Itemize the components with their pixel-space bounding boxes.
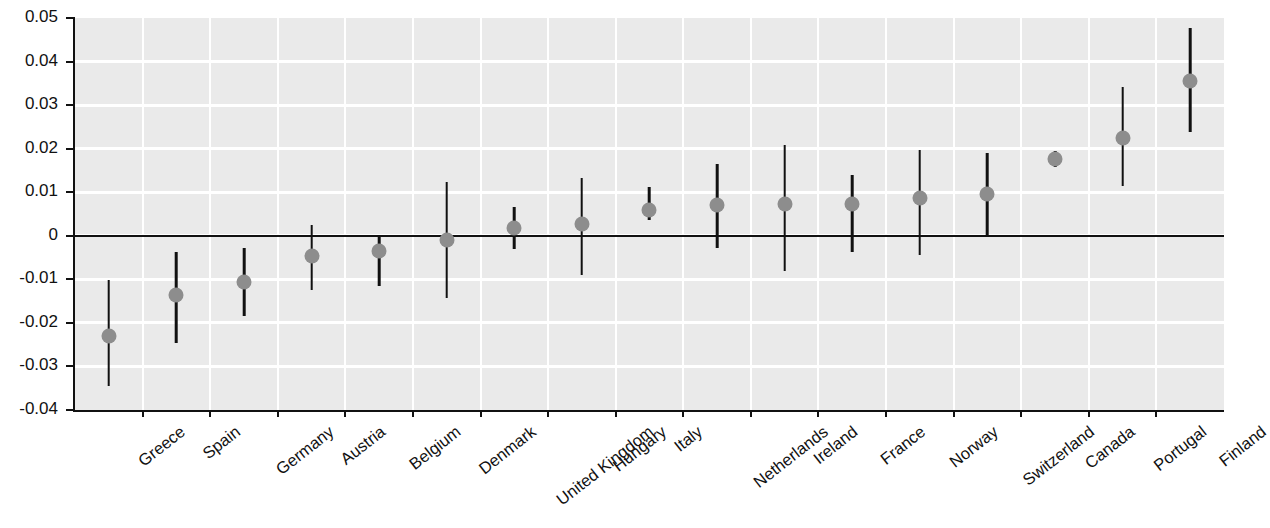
data-point-marker[interactable] xyxy=(1115,131,1130,146)
data-point-marker[interactable] xyxy=(507,220,522,235)
y-tick-mark xyxy=(66,148,75,150)
x-tick-mark xyxy=(817,410,819,417)
y-tick-mark xyxy=(66,322,75,324)
y-tick-label: 0.01 xyxy=(0,181,58,201)
x-axis-label-denmark: Denmark xyxy=(475,422,539,478)
x-tick-mark xyxy=(750,410,752,417)
data-point-marker[interactable] xyxy=(912,191,927,206)
data-point-marker[interactable] xyxy=(1183,73,1198,88)
x-axis-label-greece: Greece xyxy=(134,422,188,470)
y-tick-label: -0.04 xyxy=(0,399,58,419)
y-tick-mark xyxy=(66,365,75,367)
y-tick-mark xyxy=(66,191,75,193)
y-tick-label: -0.03 xyxy=(0,355,58,375)
data-point-group[interactable] xyxy=(210,18,278,410)
data-point-group[interactable] xyxy=(683,18,751,410)
y-tick-label: -0.02 xyxy=(0,312,58,332)
y-tick-mark xyxy=(66,104,75,106)
data-point-marker[interactable] xyxy=(574,216,589,231)
plot-area xyxy=(73,18,1224,412)
data-point-group[interactable] xyxy=(616,18,684,410)
y-tick-label: 0 xyxy=(0,225,58,245)
data-point-marker[interactable] xyxy=(845,196,860,211)
x-tick-mark xyxy=(412,410,414,417)
y-tick-label: 0.05 xyxy=(0,7,58,27)
data-point-marker[interactable] xyxy=(439,233,454,248)
x-tick-mark xyxy=(344,410,346,417)
data-point-marker[interactable] xyxy=(236,274,251,289)
error-bar xyxy=(851,175,854,252)
data-point-marker[interactable] xyxy=(1048,151,1063,166)
data-point-marker[interactable] xyxy=(169,288,184,303)
data-point-group[interactable] xyxy=(143,18,211,410)
x-axis-label-finland: Finland xyxy=(1216,422,1270,470)
data-point-marker[interactable] xyxy=(980,186,995,201)
x-tick-mark xyxy=(885,410,887,417)
data-point-marker[interactable] xyxy=(304,249,319,264)
data-point-group[interactable] xyxy=(75,18,143,410)
x-tick-mark xyxy=(277,410,279,417)
y-tick-label: 0.03 xyxy=(0,94,58,114)
x-axis-label-belgium: Belgium xyxy=(406,422,465,474)
data-point-group[interactable] xyxy=(548,18,616,410)
y-tick-label: 0.02 xyxy=(0,138,58,158)
data-point-marker[interactable] xyxy=(372,244,387,259)
x-axis-label-norway: Norway xyxy=(946,422,1002,471)
data-point-group[interactable] xyxy=(481,18,549,410)
data-point-group[interactable] xyxy=(1089,18,1157,410)
x-tick-mark xyxy=(142,410,144,417)
x-tick-mark xyxy=(547,410,549,417)
x-axis-label-spain: Spain xyxy=(199,422,244,463)
x-tick-mark xyxy=(682,410,684,417)
x-axis-label-portugal: Portugal xyxy=(1150,422,1210,475)
data-point-group[interactable] xyxy=(818,18,886,410)
data-point-marker[interactable] xyxy=(710,198,725,213)
x-axis-label-austria: Austria xyxy=(336,422,388,469)
x-tick-mark xyxy=(1155,410,1157,417)
zero-reference-line xyxy=(75,235,1224,238)
x-tick-mark xyxy=(953,410,955,417)
data-point-group[interactable] xyxy=(1156,18,1224,410)
data-point-marker[interactable] xyxy=(101,328,116,343)
data-point-marker[interactable] xyxy=(642,202,657,217)
x-axis-label-italy: Italy xyxy=(670,422,706,456)
x-axis-label-germany: Germany xyxy=(272,422,337,479)
x-tick-mark xyxy=(480,410,482,417)
data-point-group[interactable] xyxy=(886,18,954,410)
data-point-group[interactable] xyxy=(413,18,481,410)
data-point-group[interactable] xyxy=(751,18,819,410)
x-axis-label-france: France xyxy=(877,422,929,469)
x-tick-mark xyxy=(209,410,211,417)
data-point-marker[interactable] xyxy=(777,197,792,212)
y-tick-mark xyxy=(66,61,75,63)
data-point-group[interactable] xyxy=(345,18,413,410)
data-point-group[interactable] xyxy=(954,18,1022,410)
x-tick-mark xyxy=(1020,410,1022,417)
y-tick-label: 0.04 xyxy=(0,51,58,71)
y-tick-mark xyxy=(66,409,75,411)
data-point-group[interactable] xyxy=(1021,18,1089,410)
x-tick-mark xyxy=(1088,410,1090,417)
y-tick-mark xyxy=(66,235,75,237)
x-tick-mark xyxy=(615,410,617,417)
y-tick-mark xyxy=(66,278,75,280)
y-tick-mark xyxy=(66,17,75,19)
y-tick-label: -0.01 xyxy=(0,268,58,288)
data-point-group[interactable] xyxy=(278,18,346,410)
